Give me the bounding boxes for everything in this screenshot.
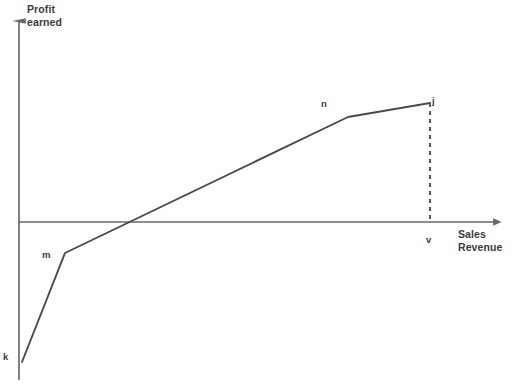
y-axis-label: Profitearned — [27, 3, 62, 29]
x-axis-label-line2: Revenue — [458, 241, 502, 253]
y-axis-label-line2: earned — [27, 16, 62, 28]
point-label-m: m — [42, 250, 50, 260]
chart-canvas: Profitearned SalesRevenue k m n j v — [0, 0, 513, 392]
point-label-n: n — [321, 99, 327, 109]
x-axis-label: SalesRevenue — [458, 228, 502, 254]
profit-curve-line — [22, 103, 430, 362]
chart-graphic — [0, 0, 513, 392]
point-label-k: k — [3, 352, 8, 362]
x-axis-label-line1: Sales — [458, 228, 486, 240]
y-axis-label-line1: Profit — [27, 3, 55, 15]
point-label-v: v — [426, 235, 431, 245]
point-label-j: j — [432, 96, 435, 106]
